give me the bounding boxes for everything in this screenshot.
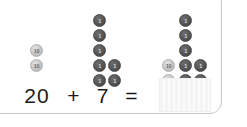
one-coin: 1 xyxy=(93,44,106,57)
coin-value-label: 1 xyxy=(180,61,190,73)
one-coin: 1 xyxy=(179,59,192,72)
plus-operator: + xyxy=(58,84,90,108)
ten-coin: 10 xyxy=(30,44,43,57)
coin-value-label: 1 xyxy=(180,31,190,43)
first-addend: 20 xyxy=(16,84,58,108)
one-coin: 1 xyxy=(179,14,192,27)
first-addend-coins: 10 10 xyxy=(30,44,50,74)
one-coin: 1 xyxy=(108,59,121,72)
second-addend-coins: 1 1 1 1 1 1 1 xyxy=(93,14,125,76)
ten-coin: 10 xyxy=(30,59,43,72)
exercise-canvas: 10 10 1 1 1 1 1 1 1 10 xyxy=(0,0,247,127)
answer-value xyxy=(160,79,210,111)
one-coin: 1 xyxy=(93,29,106,42)
coin-value-label: 1 xyxy=(94,61,104,73)
coin-value-label: 10 xyxy=(31,46,41,58)
sum-coins: 10 10 1 1 1 1 1 1 1 xyxy=(162,14,212,76)
coin-value-label: 1 xyxy=(180,16,190,28)
second-addend: 7 xyxy=(90,84,116,108)
coin-value-label: 1 xyxy=(180,46,190,58)
coin-value-label: 1 xyxy=(94,16,104,28)
one-coin: 1 xyxy=(93,14,106,27)
coin-value-label: 1 xyxy=(195,61,205,73)
one-coin: 1 xyxy=(179,44,192,57)
coin-value-label: 10 xyxy=(31,61,41,73)
ten-coin: 10 xyxy=(162,59,175,72)
coin-value-label: 10 xyxy=(163,61,173,73)
one-coin: 1 xyxy=(93,59,106,72)
equals-operator: = xyxy=(116,84,148,108)
answer-input[interactable] xyxy=(159,78,211,112)
coin-value-label: 1 xyxy=(94,46,104,58)
coin-value-label: 1 xyxy=(109,61,119,73)
one-coin: 1 xyxy=(179,29,192,42)
equation-row: 20 + 7 = xyxy=(16,82,148,110)
one-coin: 1 xyxy=(194,59,207,72)
coin-value-label: 1 xyxy=(94,31,104,43)
